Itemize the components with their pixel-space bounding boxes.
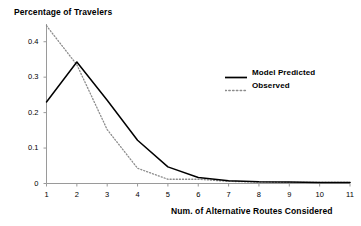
y-tick-label: 0.3 (13, 72, 39, 81)
x-tick-label: 11 (342, 190, 358, 199)
x-tick-label: 6 (190, 190, 206, 199)
series-line-observed (47, 26, 351, 183)
y-tick-label: 0.2 (13, 108, 39, 117)
x-tick-label: 2 (69, 190, 85, 199)
solid-line-icon (225, 68, 247, 78)
x-tick-label: 8 (251, 190, 267, 199)
legend-item-observed: Observed (225, 79, 345, 92)
x-tick-label: 4 (130, 190, 146, 199)
x-tick-label: 1 (39, 190, 55, 199)
y-tick-label: 0.1 (13, 143, 39, 152)
x-tick-label: 5 (160, 190, 176, 199)
legend-label-model-predicted: Model Predicted (252, 68, 315, 77)
x-tick-label: 3 (99, 190, 115, 199)
x-tick-label: 9 (281, 190, 297, 199)
y-tick-label: 0.4 (13, 37, 39, 46)
legend-label-observed: Observed (252, 81, 290, 90)
x-axis-title: Num. of Alternative Routes Considered (171, 206, 333, 216)
x-tick-label: 10 (312, 190, 328, 199)
y-tick-label: 0 (13, 179, 39, 188)
chart-figure: Percentage of Travelers 0.40.30.20.10 12… (0, 0, 361, 226)
dotted-line-icon (225, 81, 247, 91)
x-tick-label: 7 (221, 190, 237, 199)
chart-legend: Model Predicted Observed (225, 66, 345, 92)
legend-item-model-predicted: Model Predicted (225, 66, 345, 79)
